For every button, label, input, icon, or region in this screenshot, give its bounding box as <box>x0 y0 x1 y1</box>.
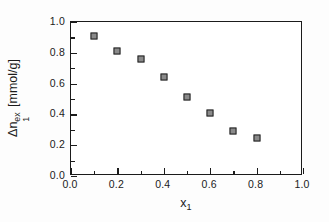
y-tick-major <box>71 22 77 23</box>
y-tick-major <box>71 84 77 85</box>
x-tick-label: 0.4 <box>155 178 170 190</box>
data-point <box>160 73 167 80</box>
y-axis-label-units: [mmol/g] <box>6 59 20 107</box>
x-tick-label: 0.2 <box>109 178 124 190</box>
x-tick-minor <box>141 171 142 175</box>
y-tick-minor <box>71 161 75 162</box>
data-point <box>184 93 191 100</box>
plot-area <box>71 22 301 174</box>
x-tick-major <box>257 168 258 174</box>
data-point <box>114 48 121 55</box>
y-tick-major <box>71 114 77 115</box>
y-tick-minor <box>71 68 75 69</box>
x-tick-major <box>71 168 72 174</box>
x-tick-major <box>164 168 165 174</box>
x-axis-label-subscript: 1 <box>187 202 192 212</box>
x-tick-minor <box>187 171 188 175</box>
y-tick-major <box>71 53 77 54</box>
x-tick-label: 1.0 <box>294 178 309 190</box>
x-tick-minor <box>280 171 281 175</box>
x-tick-major <box>303 168 304 174</box>
x-tick-label: 0.0 <box>62 178 77 190</box>
y-tick-label: 0.2 <box>50 138 65 150</box>
x-tick-label: 0.6 <box>202 178 217 190</box>
data-point <box>137 55 144 62</box>
y-axis-label-base: n <box>6 122 20 129</box>
data-point <box>91 32 98 39</box>
plot-frame <box>70 21 302 175</box>
x-tick-minor <box>94 171 95 175</box>
y-tick-major <box>71 176 77 177</box>
y-axis-label-delta: Δ <box>6 129 20 137</box>
y-axis-label-subscript: 1 <box>21 117 31 122</box>
x-axis-label: x1 <box>180 196 191 212</box>
y-tick-label: 0.8 <box>50 46 65 58</box>
y-tick-minor <box>71 130 75 131</box>
y-tick-label: 0.4 <box>50 107 65 119</box>
x-tick-major <box>117 168 118 174</box>
y-tick-label: 0.6 <box>50 77 65 89</box>
data-point <box>253 135 260 142</box>
y-tick-label: 1.0 <box>50 15 65 27</box>
y-tick-major <box>71 145 77 146</box>
data-point <box>230 127 237 134</box>
x-tick-major <box>210 168 211 174</box>
data-point <box>207 109 214 116</box>
y-tick-minor <box>71 99 75 100</box>
y-axis-label: Δnex1 [mmol/g] <box>6 59 20 137</box>
x-tick-label: 0.8 <box>248 178 263 190</box>
x-tick-minor <box>233 171 234 175</box>
y-tick-minor <box>71 37 75 38</box>
chart-figure: Δnex1 [mmol/g] x1 0.00.20.40.60.81.0 0.0… <box>0 0 329 222</box>
